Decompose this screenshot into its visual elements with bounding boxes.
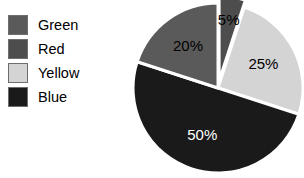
pie-chart-plot-area: 5%25%50%20%	[131, 0, 304, 178]
legend-item-green: Green	[8, 13, 128, 37]
legend-item-red: Red	[8, 37, 128, 61]
pie-label-yellow: 25%	[248, 55, 278, 72]
legend-item-yellow: Yellow	[8, 61, 128, 85]
legend-item-blue: Blue	[8, 85, 128, 109]
pie-chart-figure: Green Red Yellow Blue 5%25%50%20%	[0, 0, 304, 178]
legend-swatch-blue	[8, 87, 28, 107]
pie-chart-svg: 5%25%50%20%	[131, 0, 304, 178]
pie-label-green: 20%	[173, 37, 203, 54]
pie-label-blue: 50%	[187, 126, 217, 143]
legend-label-red: Red	[38, 42, 65, 57]
legend-label-blue: Blue	[38, 90, 67, 105]
legend-swatch-yellow	[8, 63, 28, 83]
legend-label-yellow: Yellow	[38, 66, 79, 81]
legend-label-green: Green	[38, 18, 78, 33]
legend-swatch-green	[8, 15, 28, 35]
chart-legend: Green Red Yellow Blue	[8, 13, 128, 109]
pie-label-red: 5%	[218, 11, 240, 28]
legend-swatch-red	[8, 39, 28, 59]
